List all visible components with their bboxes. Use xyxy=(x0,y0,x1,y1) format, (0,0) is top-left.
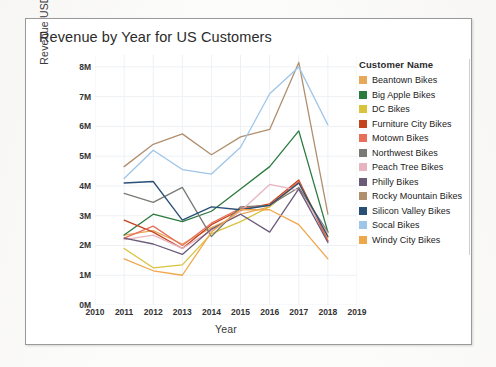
legend-color-swatch xyxy=(359,149,367,157)
legend-color-swatch xyxy=(359,91,367,99)
legend-item[interactable]: Windy City Bikes xyxy=(359,233,469,248)
chart-container: Revenue by Year for US Customers Revenue… xyxy=(25,18,472,345)
x-axis-tick-label: 2018 xyxy=(318,307,337,317)
legend-item-label: DC Bikes xyxy=(372,104,410,114)
legend-item-label: Beantown Bikes xyxy=(372,75,437,85)
legend: Customer Name Beantown BikesBig Apple Bi… xyxy=(359,59,469,247)
y-axis-tick-label: 4M xyxy=(79,181,91,191)
legend-item-label: Northwest Bikes xyxy=(372,148,438,158)
legend-color-swatch xyxy=(359,134,367,142)
legend-item[interactable]: Peach Tree Bikes xyxy=(359,160,469,175)
legend-color-swatch xyxy=(359,192,367,200)
legend-divider xyxy=(469,59,470,255)
x-axis-tick-label: 2012 xyxy=(144,307,163,317)
x-axis-title: Year xyxy=(95,323,357,335)
legend-item-label: Furniture City Bikes xyxy=(372,119,452,129)
y-axis-tick-label: 6M xyxy=(79,121,91,131)
line-chart-svg xyxy=(95,55,357,305)
x-axis-tick-label: 2016 xyxy=(260,307,279,317)
legend-item-label: Socal Bikes xyxy=(372,220,420,230)
series-line xyxy=(124,67,328,179)
legend-item-label: Motown Bikes xyxy=(372,133,429,143)
legend-color-swatch xyxy=(359,76,367,84)
legend-item[interactable]: Socal Bikes xyxy=(359,218,469,233)
legend-item-label: Silicon Valley Bikes xyxy=(372,206,450,216)
legend-item[interactable]: Rocky Mountain Bikes xyxy=(359,189,469,204)
legend-item-label: Rocky Mountain Bikes xyxy=(372,191,462,201)
series-line xyxy=(124,184,328,248)
x-axis-tick-label: 2014 xyxy=(202,307,221,317)
legend-color-swatch xyxy=(359,236,367,244)
legend-item[interactable]: DC Bikes xyxy=(359,102,469,117)
legend-title: Customer Name xyxy=(359,59,469,70)
series-line xyxy=(124,187,328,236)
plot-canvas xyxy=(95,55,357,305)
legend-item[interactable]: Motown Bikes xyxy=(359,131,469,146)
legend-item[interactable]: Philly Bikes xyxy=(359,175,469,190)
plot-region: Revenue USD 0M1M2M3M4M5M6M7M8M 201020112… xyxy=(64,55,364,325)
x-axis-ticks: 2010201120122013201420152016201720182019 xyxy=(95,307,357,323)
legend-item-label: Big Apple Bikes xyxy=(372,90,435,100)
x-axis-tick-label: 2015 xyxy=(231,307,250,317)
legend-color-swatch xyxy=(359,120,367,128)
legend-color-swatch xyxy=(359,105,367,113)
y-axis-tick-label: 5M xyxy=(79,151,91,161)
legend-item-label: Philly Bikes xyxy=(372,177,419,187)
legend-item-label: Peach Tree Bikes xyxy=(372,162,443,172)
legend-item[interactable]: Big Apple Bikes xyxy=(359,88,469,103)
screenshot-canvas: Revenue by Year for US Customers Revenue… xyxy=(0,0,496,367)
legend-color-swatch xyxy=(359,207,367,215)
y-axis-tick-label: 8M xyxy=(79,62,91,72)
x-axis-tick-label: 2011 xyxy=(115,307,133,317)
chart-title: Revenue by Year for US Customers xyxy=(39,29,272,45)
x-axis-tick-label: 2017 xyxy=(289,307,308,317)
y-axis-tick-label: 7M xyxy=(79,92,91,102)
x-axis-tick-label: 2010 xyxy=(86,307,105,317)
y-axis-title: Revenue USD xyxy=(38,0,50,105)
legend-color-swatch xyxy=(359,178,367,186)
y-axis-tick-label: 3M xyxy=(79,211,91,221)
legend-item[interactable]: Beantown Bikes xyxy=(359,73,469,88)
gridlines xyxy=(95,55,357,305)
x-axis-tick-label: 2013 xyxy=(173,307,192,317)
legend-item-label: Windy City Bikes xyxy=(372,235,440,245)
legend-color-swatch xyxy=(359,163,367,171)
legend-color-swatch xyxy=(359,221,367,229)
legend-item[interactable]: Silicon Valley Bikes xyxy=(359,204,469,219)
series-line xyxy=(124,181,328,267)
legend-item[interactable]: Northwest Bikes xyxy=(359,146,469,161)
legend-items: Beantown BikesBig Apple BikesDC BikesFur… xyxy=(359,73,469,247)
y-axis-ticks: 0M1M2M3M4M5M6M7M8M xyxy=(64,55,94,305)
legend-item[interactable]: Furniture City Bikes xyxy=(359,117,469,132)
x-axis-tick-label: 2019 xyxy=(348,307,367,317)
y-axis-tick-label: 1M xyxy=(79,270,91,280)
y-axis-tick-label: 2M xyxy=(79,240,91,250)
series-line xyxy=(124,210,328,275)
